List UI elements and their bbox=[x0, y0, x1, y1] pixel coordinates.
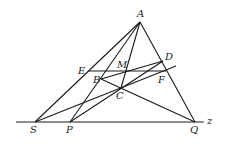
label-M: M bbox=[116, 59, 128, 70]
diagram-lines bbox=[16, 22, 204, 122]
label-P: P bbox=[65, 124, 73, 135]
line-SC-extended bbox=[35, 66, 176, 122]
label-C: C bbox=[116, 90, 124, 101]
label-F: F bbox=[157, 74, 166, 85]
label-D: D bbox=[164, 51, 173, 62]
segment-AQ bbox=[140, 22, 195, 122]
label-S: S bbox=[30, 124, 37, 135]
label-E: E bbox=[77, 65, 86, 76]
label-B: B bbox=[92, 74, 100, 85]
label-Q: Q bbox=[190, 124, 198, 135]
label-z: z bbox=[206, 115, 213, 126]
label-A: A bbox=[136, 8, 144, 19]
geometry-diagram: A D E M F B C S P Q z bbox=[0, 0, 227, 147]
